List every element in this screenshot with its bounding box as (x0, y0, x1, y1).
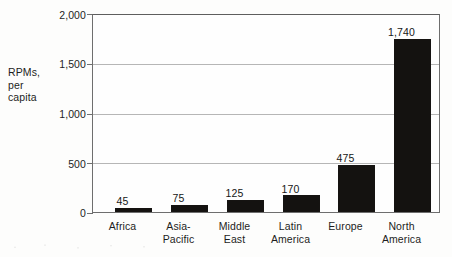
y-axis-title-line-3: capita (8, 91, 64, 104)
gridline-1500 (93, 64, 439, 65)
chart-figure: RPMs, per capita 2,000 1,500 1,000 500 0… (0, 0, 452, 257)
bar-north-america[interactable] (394, 39, 431, 212)
y-axis-title-line-2: per (8, 79, 64, 92)
category-label-north-america: North America (365, 220, 438, 245)
bar-value-north-america: 1,740 (373, 26, 430, 38)
y-tick-label-500: 500 (26, 158, 86, 170)
bar-value-africa: 45 (94, 195, 151, 207)
y-axis-title: RPMs, per capita (8, 66, 64, 104)
y-tick-label-0: 0 (26, 207, 86, 219)
y-tick-label-1500: 1,500 (26, 58, 86, 70)
gridline-1000 (93, 114, 439, 115)
bar-value-europe: 475 (317, 152, 374, 164)
bar-value-latin-america: 170 (262, 183, 319, 195)
bar-value-middle-east: 125 (206, 187, 263, 199)
bar-asia-pacific[interactable] (171, 205, 208, 213)
bar-middle-east[interactable] (227, 200, 264, 212)
bar-value-asia-pacific: 75 (150, 192, 207, 204)
y-tick-label-2000: 2,000 (26, 9, 86, 21)
category-label-latin-america-line-2: America (254, 233, 327, 246)
bar-latin-america[interactable] (283, 195, 320, 212)
bar-europe[interactable] (338, 165, 375, 212)
scan-speckle (6, 243, 156, 250)
bar-africa[interactable] (115, 208, 152, 213)
category-label-north-america-line-1: North (365, 220, 438, 233)
category-label-north-america-line-2: America (365, 233, 438, 246)
gridline-500 (93, 163, 439, 164)
y-tick-mark-0 (87, 213, 93, 214)
y-tick-label-1000: 1,000 (26, 108, 86, 120)
